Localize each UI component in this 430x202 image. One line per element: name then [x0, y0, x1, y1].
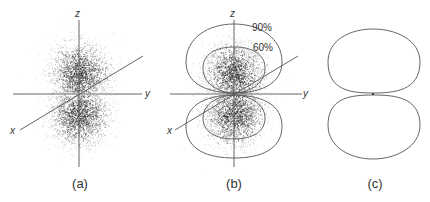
panel-b: z y x 90% 60% (b): [166, 8, 309, 191]
y-label-b: y: [302, 88, 309, 99]
boundary-upper-lobe: [328, 29, 420, 93]
z-label-a: z: [74, 8, 80, 19]
caption-a: (a): [72, 176, 88, 191]
caption-b: (b): [226, 176, 242, 191]
electron-cloud-a: [23, 10, 145, 173]
x-label-b: x: [166, 125, 173, 136]
x-label-a: x: [9, 125, 16, 136]
panel-c: (c): [328, 29, 420, 191]
contour-90-label: 90%: [252, 22, 272, 33]
caption-c: (c): [367, 176, 382, 191]
y-label-a: y: [144, 88, 151, 99]
nucleus-dot: [372, 93, 374, 95]
z-label-b: z: [229, 8, 235, 19]
panel-a: z y x (a): [9, 8, 151, 191]
boundary-lower-lobe: [328, 95, 420, 159]
contour-60-label: 60%: [253, 42, 273, 53]
orbital-figure: z y x (a) z y x 90% 60% (b) (c): [0, 0, 430, 202]
